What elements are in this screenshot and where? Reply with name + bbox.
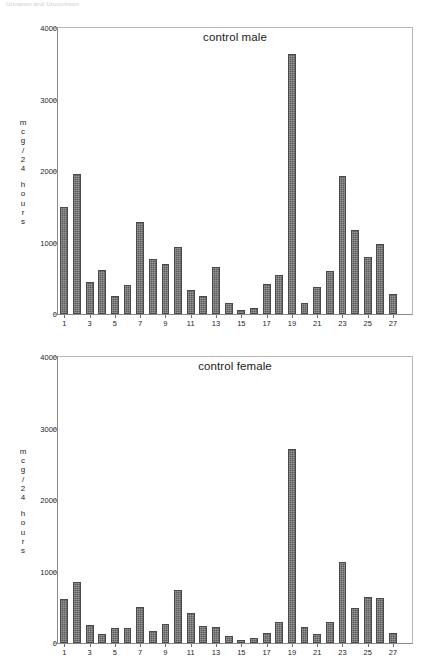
y-tick-label: 2000 [5,167,57,176]
bar [313,634,321,643]
bar [86,282,94,314]
x-tick-mark [292,315,293,318]
bar [199,296,207,314]
x-tick-label: 19 [288,319,296,328]
bar [250,638,258,643]
bar [174,247,182,314]
bar [275,275,283,314]
x-tick-mark [393,644,394,647]
x-tick-mark [241,315,242,318]
bar [162,624,170,643]
x-tick-mark [342,644,343,647]
x-axis-ticks-male: 13579111315171921232527 [58,315,412,331]
x-tick-mark [165,315,166,318]
x-tick-label: 3 [88,648,92,657]
x-tick-mark [267,644,268,647]
bar [326,271,334,314]
x-tick-label: 17 [262,648,270,657]
bar-series-male [58,28,412,314]
bar [136,607,144,643]
bar [60,207,68,314]
bar [86,625,94,643]
bar [389,633,397,643]
x-tick-mark [115,644,116,647]
x-tick-mark [90,644,91,647]
bar [263,633,271,643]
x-tick-label: 13 [212,648,220,657]
bar-series-female [58,357,412,643]
x-tick-mark [292,644,293,647]
bar [339,176,347,314]
x-tick-label: 3 [88,319,92,328]
y-tick-label: 4000 [5,24,57,33]
y-tick-label: 3000 [5,95,57,104]
x-tick-label: 13 [212,319,220,328]
y-tick-label: 0 [5,310,57,319]
y-tick-label: 1000 [5,567,57,576]
y-tick-label: 3000 [5,424,57,433]
x-tick-label: 17 [262,319,270,328]
x-tick-mark [64,644,65,647]
bar [376,244,384,314]
x-tick-mark [317,644,318,647]
bar [389,294,397,314]
x-tick-mark [317,315,318,318]
x-tick-mark [64,315,65,318]
x-tick-mark [267,315,268,318]
x-tick-mark [368,315,369,318]
x-tick-mark [393,315,394,318]
bar [149,259,157,314]
x-tick-mark [368,644,369,647]
x-tick-label: 27 [389,648,397,657]
bar [212,267,220,314]
x-tick-label: 7 [138,648,142,657]
bar [162,264,170,314]
bar [212,627,220,643]
x-tick-label: 1 [62,648,66,657]
bar [250,308,258,314]
x-tick-label: 23 [338,319,346,328]
x-tick-mark [241,644,242,647]
x-tick-label: 15 [237,319,245,328]
x-tick-label: 5 [113,648,117,657]
bar [124,285,132,314]
x-tick-mark [115,315,116,318]
x-tick-label: 7 [138,319,142,328]
x-tick-mark [140,315,141,318]
y-tick-label: 2000 [5,496,57,505]
x-tick-mark [216,315,217,318]
bar [351,608,359,643]
x-tick-label: 21 [313,648,321,657]
bar [225,303,233,314]
bar [301,303,309,314]
bar [111,628,119,643]
bar [339,562,347,644]
x-tick-label: 5 [113,319,117,328]
bar [351,230,359,314]
bar [187,613,195,643]
bar [237,640,245,643]
bar [364,257,372,314]
x-tick-label: 9 [163,648,167,657]
x-tick-label: 15 [237,648,245,657]
bar [225,636,233,644]
x-tick-label: 25 [364,648,372,657]
x-tick-mark [165,644,166,647]
y-axis-ticks-female: 01000200030004000 [0,356,57,644]
bar [124,628,132,643]
y-tick-label: 0 [5,639,57,648]
x-tick-mark [216,644,217,647]
bar [60,599,68,643]
bar [73,582,81,643]
chart-control-female: mcg/24hours 01000200030004000 control fe… [0,343,434,664]
bar [288,54,296,314]
x-tick-label: 25 [364,319,372,328]
bar [199,626,207,643]
figure-page: Urination and Urocortison mcg/24hours 01… [0,0,434,664]
bar [187,290,195,314]
x-tick-label: 9 [163,319,167,328]
bar [275,622,283,643]
bar [263,284,271,314]
bar [73,174,81,314]
bar [326,622,334,643]
